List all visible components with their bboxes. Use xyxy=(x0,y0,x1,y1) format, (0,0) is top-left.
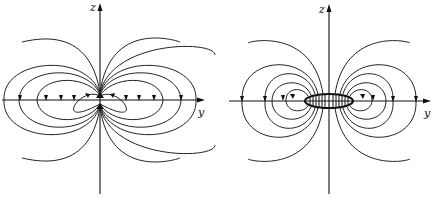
right-z-axis-arrow-icon xyxy=(327,4,332,12)
left-z-axis-arrow-icon xyxy=(98,3,103,11)
right-z-label: z xyxy=(318,3,325,16)
left-y-label: y xyxy=(197,106,205,119)
right-loop-figure: z y xyxy=(229,3,431,194)
left-dipole-figure: z y xyxy=(2,1,215,194)
right-y-label: y xyxy=(423,107,431,120)
right-y-axis-arrow-icon xyxy=(423,99,431,104)
left-z-label: z xyxy=(89,1,96,14)
left-y-axis-arrow-icon xyxy=(197,98,205,103)
field-lines-diagram: z y xyxy=(0,0,433,198)
